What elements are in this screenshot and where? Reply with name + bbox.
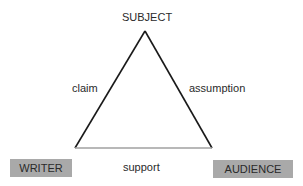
node-subject: SUBJECT — [122, 11, 172, 23]
node-writer: WRITER — [10, 159, 72, 177]
edge-label-claim: claim — [72, 82, 98, 94]
edge-label-assumption: assumption — [189, 82, 245, 94]
edge-label-support: support — [123, 161, 160, 173]
node-audience: AUDIENCE — [213, 160, 293, 178]
